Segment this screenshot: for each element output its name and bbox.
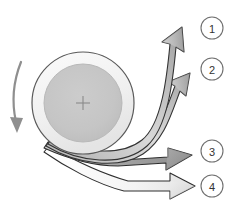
callout-3[interactable]: 3	[201, 140, 223, 162]
callout-label: 4	[209, 181, 215, 193]
callout-label: 3	[209, 146, 215, 158]
callout-2[interactable]: 2	[201, 58, 223, 80]
rotation-arrow-icon	[10, 62, 23, 133]
stream-deflection-diagram: 1 2 3 4	[0, 0, 238, 208]
callout-label: 2	[209, 64, 215, 76]
rotating-drum	[32, 52, 134, 154]
diagram-canvas: 1 2 3 4	[0, 0, 238, 208]
callout-label: 1	[209, 23, 215, 35]
callout-4[interactable]: 4	[201, 175, 223, 197]
callout-1[interactable]: 1	[201, 17, 223, 39]
